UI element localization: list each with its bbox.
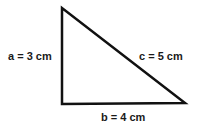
side-c-label: c = 5 cm [139, 50, 183, 62]
side-a-label: a = 3 cm [8, 50, 52, 62]
side-b-label: b = 4 cm [101, 111, 145, 123]
triangle-figure [0, 0, 201, 126]
